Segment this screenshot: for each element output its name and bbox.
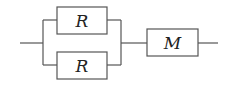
resistor-bottom-label: R	[75, 56, 89, 76]
m-block: M	[147, 29, 198, 56]
resistor-block-bottom: R	[57, 52, 107, 79]
resistor-block-top: R	[57, 7, 107, 34]
circuit-svg: R R M	[0, 0, 230, 88]
resistor-top-label: R	[75, 11, 89, 31]
circuit-diagram: R R M	[0, 0, 230, 88]
m-label: M	[163, 33, 182, 53]
